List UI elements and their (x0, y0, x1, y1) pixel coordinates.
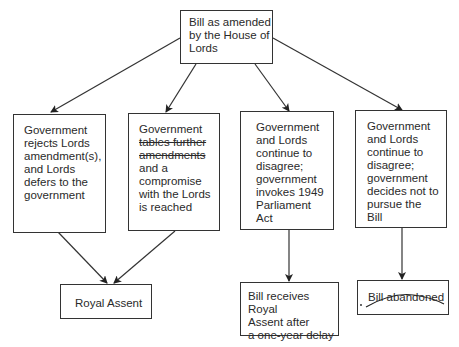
node-text: is reached (139, 201, 219, 214)
node-text: defers to the (24, 176, 105, 189)
node-text: Bill (367, 211, 446, 224)
node-text: government (367, 172, 446, 185)
arrow-root-opt2 (166, 64, 196, 112)
node-text: amendment(s), (24, 150, 105, 163)
node-text: Government (256, 121, 333, 134)
node-text: rejects Lords (24, 137, 105, 150)
option-node-abandon: Government and Lords continue to disagre… (355, 110, 447, 228)
node-text: Lords (189, 42, 272, 55)
arrow-root-opt4 (273, 38, 402, 110)
node-text: disagree; (367, 159, 446, 172)
struck-text: tables further (139, 136, 219, 149)
node-text: disagree; (256, 160, 333, 173)
node-text: Government (367, 120, 446, 133)
option-node-parliament-act: Government and Lords continue to disagre… (240, 111, 334, 230)
node-text: Bill abandoned (368, 291, 448, 304)
node-text: invokes 1949 (256, 186, 333, 199)
node-text: and Lords (256, 134, 333, 147)
node-text: a one-year delay (248, 329, 338, 342)
struck-text: amendments (139, 149, 219, 162)
arrow-opt2-out1 (114, 231, 175, 283)
node-text: and Lords (367, 133, 446, 146)
node-text: by the House of (189, 29, 272, 42)
option-node-compromise: Government tables further amendments and… (128, 113, 220, 231)
node-text: compromise (139, 175, 219, 188)
node-text: Royal Assent (75, 297, 151, 310)
arrow-opt1-out1 (58, 232, 107, 283)
node-text: continue to (367, 146, 446, 159)
option-node-reject-amendments: Government rejects Lords amendment(s), a… (13, 114, 106, 233)
node-text: Act (256, 212, 333, 225)
node-text: decides not to (367, 185, 446, 198)
node-text: government (24, 189, 105, 202)
outcome-node-royal-assent: Royal Assent (60, 284, 152, 319)
arrow-root-opt3 (255, 64, 289, 111)
node-text: Bill receives Royal (248, 290, 338, 316)
node-text: Assent after (248, 316, 338, 329)
node-text: Government (24, 124, 105, 137)
node-text: with the Lords (139, 188, 219, 201)
node-text: and Lords (24, 163, 105, 176)
outcome-node-delayed-assent: Bill receives Royal Assent after a one-y… (240, 282, 339, 336)
node-text: and a (139, 162, 219, 175)
outcome-node-bill-abandoned: Bill abandoned (357, 280, 449, 315)
node-text: Government (139, 123, 219, 136)
node-text: continue to (256, 147, 333, 160)
node-text: government (256, 173, 333, 186)
node-text: Bill as amended (189, 16, 272, 29)
root-node: Bill as amended by the House of Lords (180, 10, 273, 64)
arrow-root-opt1 (51, 38, 180, 112)
node-text: pursue the (367, 198, 446, 211)
node-text: Parliament (256, 199, 333, 212)
